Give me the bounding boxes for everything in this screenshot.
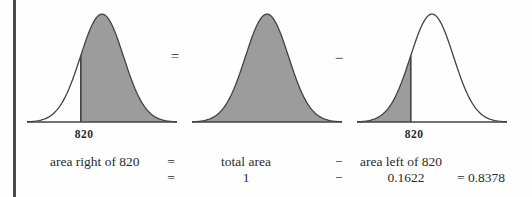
curve-total-area <box>189 10 345 126</box>
equation-rhs-label: area left of 820 <box>360 154 438 170</box>
equation-left-area-value: 0.1622 <box>375 170 437 186</box>
equation-equals-row2: = <box>162 170 180 186</box>
equation-total-value: 1 <box>214 170 278 186</box>
normal-curve-area-figure: = − 820 820 area right of 820 = total ar… <box>0 0 532 197</box>
curve-area-left-of-820 <box>354 10 510 126</box>
equation-minus-row1: − <box>330 154 348 170</box>
page-edge-rule <box>13 0 16 197</box>
equals-operator: = <box>166 48 184 65</box>
equation-lhs-label: area right of 820 <box>50 154 136 170</box>
cut-value-label-left-curve: 820 <box>70 128 98 140</box>
cut-value-label-right-curve: 820 <box>400 128 428 140</box>
equation-minus-row2: − <box>330 170 348 186</box>
equation-total-area-label: total area <box>214 154 278 170</box>
minus-operator: − <box>330 50 348 67</box>
equation-result-value: = 0.8378 <box>453 170 509 186</box>
equation-equals-row1: = <box>162 154 180 170</box>
curve-area-right-of-820 <box>24 10 180 126</box>
